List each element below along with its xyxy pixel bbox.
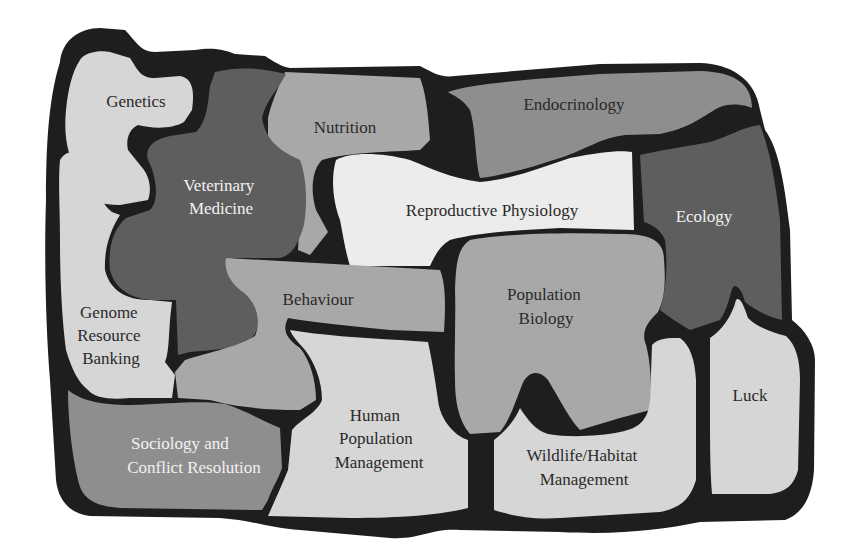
piece-reproductive-physiology-label: Reproductive Physiology [406, 201, 579, 220]
discipline-puzzle-diagram: Genetics Genome Resource Banking Nutriti… [0, 0, 849, 553]
piece-genome-resource-banking-label: Genome Resource Banking [77, 303, 145, 368]
piece-genetics-label: Genetics [106, 92, 165, 111]
piece-luck-label: Luck [733, 386, 768, 405]
piece-endocrinology-label: Endocrinology [523, 95, 625, 114]
piece-nutrition-label: Nutrition [314, 118, 377, 137]
piece-ecology-label: Ecology [676, 207, 733, 226]
piece-behaviour-label: Behaviour [283, 290, 354, 309]
